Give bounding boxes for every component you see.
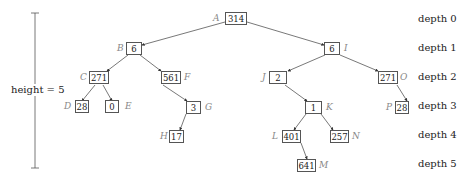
tree-node-e: 0 [105, 100, 119, 113]
node-label-m: M [319, 159, 328, 172]
edge-l-m [301, 143, 307, 159]
edge-c-d [82, 85, 95, 101]
edge-a-b [142, 22, 225, 45]
edge-b-c [107, 55, 128, 71]
tree-node-d: 28 [75, 100, 89, 113]
edge-o-p [397, 85, 407, 101]
node-label-k: K [326, 101, 333, 114]
tree-node-b: 6 [126, 42, 142, 55]
edge-i-j [288, 55, 325, 71]
depth-label-0: depth 0 [418, 13, 457, 25]
tree-node-k: 1 [305, 101, 322, 114]
edge-a-i [247, 22, 324, 45]
tree-node-p: 28 [395, 101, 409, 114]
edge-g-h [180, 114, 186, 130]
node-label-n: N [352, 130, 360, 143]
depth-label-5: depth 5 [418, 158, 457, 170]
node-label-c: C [80, 71, 87, 84]
edge-i-o [340, 55, 378, 71]
node-label-l: L [272, 130, 278, 143]
node-label-j: J [262, 71, 266, 84]
edge-k-n [321, 114, 333, 130]
edge-b-f [140, 55, 161, 71]
node-label-e: E [125, 100, 132, 113]
node-label-b: B [117, 42, 124, 55]
edge-k-l [294, 114, 306, 130]
binary-tree-diagram: height = 5 depth 0 depth 1 depth 2 depth… [0, 0, 465, 184]
tree-node-c: 271 [89, 71, 109, 84]
tree-node-o: 271 [378, 71, 398, 84]
tree-node-j: 2 [269, 71, 287, 84]
node-label-h: H [160, 130, 168, 143]
node-label-o: O [400, 71, 407, 84]
edge-f-g [163, 85, 187, 101]
tree-node-l: 401 [282, 130, 301, 143]
edge-j-k [285, 85, 307, 101]
depth-label-1: depth 1 [418, 42, 457, 54]
node-label-f: F [184, 71, 190, 84]
tree-node-a: 314 [225, 12, 247, 25]
node-label-d: D [64, 100, 71, 113]
depth-label-3: depth 3 [418, 100, 457, 112]
node-label-g: G [205, 101, 212, 114]
tree-node-g: 3 [186, 101, 201, 114]
edge-c-e [103, 85, 112, 101]
tree-node-h: 17 [169, 130, 184, 143]
tree-node-m: 641 [297, 159, 316, 172]
tree-node-f: 561 [161, 71, 181, 84]
node-label-i: I [344, 42, 348, 55]
node-label-p: P [386, 101, 392, 114]
depth-label-4: depth 4 [418, 129, 457, 141]
node-label-a: A [213, 12, 220, 25]
tree-node-i: 6 [324, 42, 340, 55]
depth-label-2: depth 2 [418, 71, 457, 83]
tree-node-n: 257 [330, 130, 349, 143]
height-label: height = 5 [10, 84, 66, 96]
tree-edges [0, 0, 465, 184]
